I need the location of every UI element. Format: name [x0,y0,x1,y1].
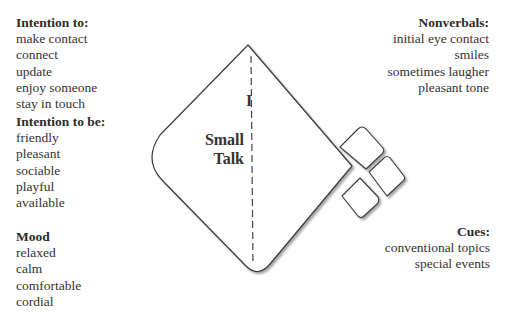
kite-roman-numeral: I [246,91,252,110]
tail-tile-bottom [342,178,379,218]
kite-diagram [0,0,506,336]
kite-tail-tiles [340,127,405,218]
tail-tile-right [369,157,405,197]
kite-title-line1: Small [205,130,244,149]
kite-title: Small Talk [205,130,244,168]
kite-title-line2: Talk [205,149,244,168]
